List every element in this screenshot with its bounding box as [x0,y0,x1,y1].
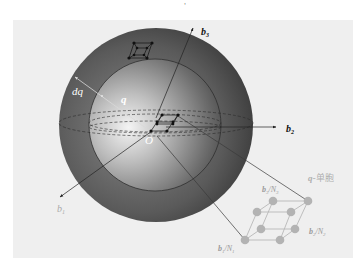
cell-title: q-单胞 [308,172,334,183]
cell-node [291,225,300,234]
cell-node [304,197,313,206]
cell-node [269,197,278,206]
top-mark: ' [184,2,186,11]
cell-node [276,236,285,245]
shell-label-dq: dq [72,85,84,97]
radius-label-q: q [121,93,127,105]
cell-node [257,225,266,234]
radius-tick [101,95,103,97]
cell-node [253,208,262,217]
cell-node [241,236,250,245]
origin-label: O [145,134,153,146]
reciprocal-space-diagram: ' [0,0,363,274]
cell-node [287,208,296,217]
